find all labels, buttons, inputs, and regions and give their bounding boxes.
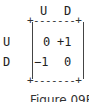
- cell-u-u: 0: [43, 36, 50, 48]
- figure-caption: Figure 09B: [30, 94, 89, 102]
- cell-d-u: −1: [34, 56, 48, 68]
- right-border: [83, 22, 84, 79]
- top-border: +-------+: [27, 15, 81, 26]
- cell-u-d: +1: [57, 36, 71, 48]
- row-header-u: U: [3, 36, 10, 48]
- bottom-border: +-------+: [27, 75, 81, 86]
- left-border: [32, 22, 33, 79]
- row-header-d: D: [3, 56, 10, 68]
- cell-d-d: 0: [64, 56, 71, 68]
